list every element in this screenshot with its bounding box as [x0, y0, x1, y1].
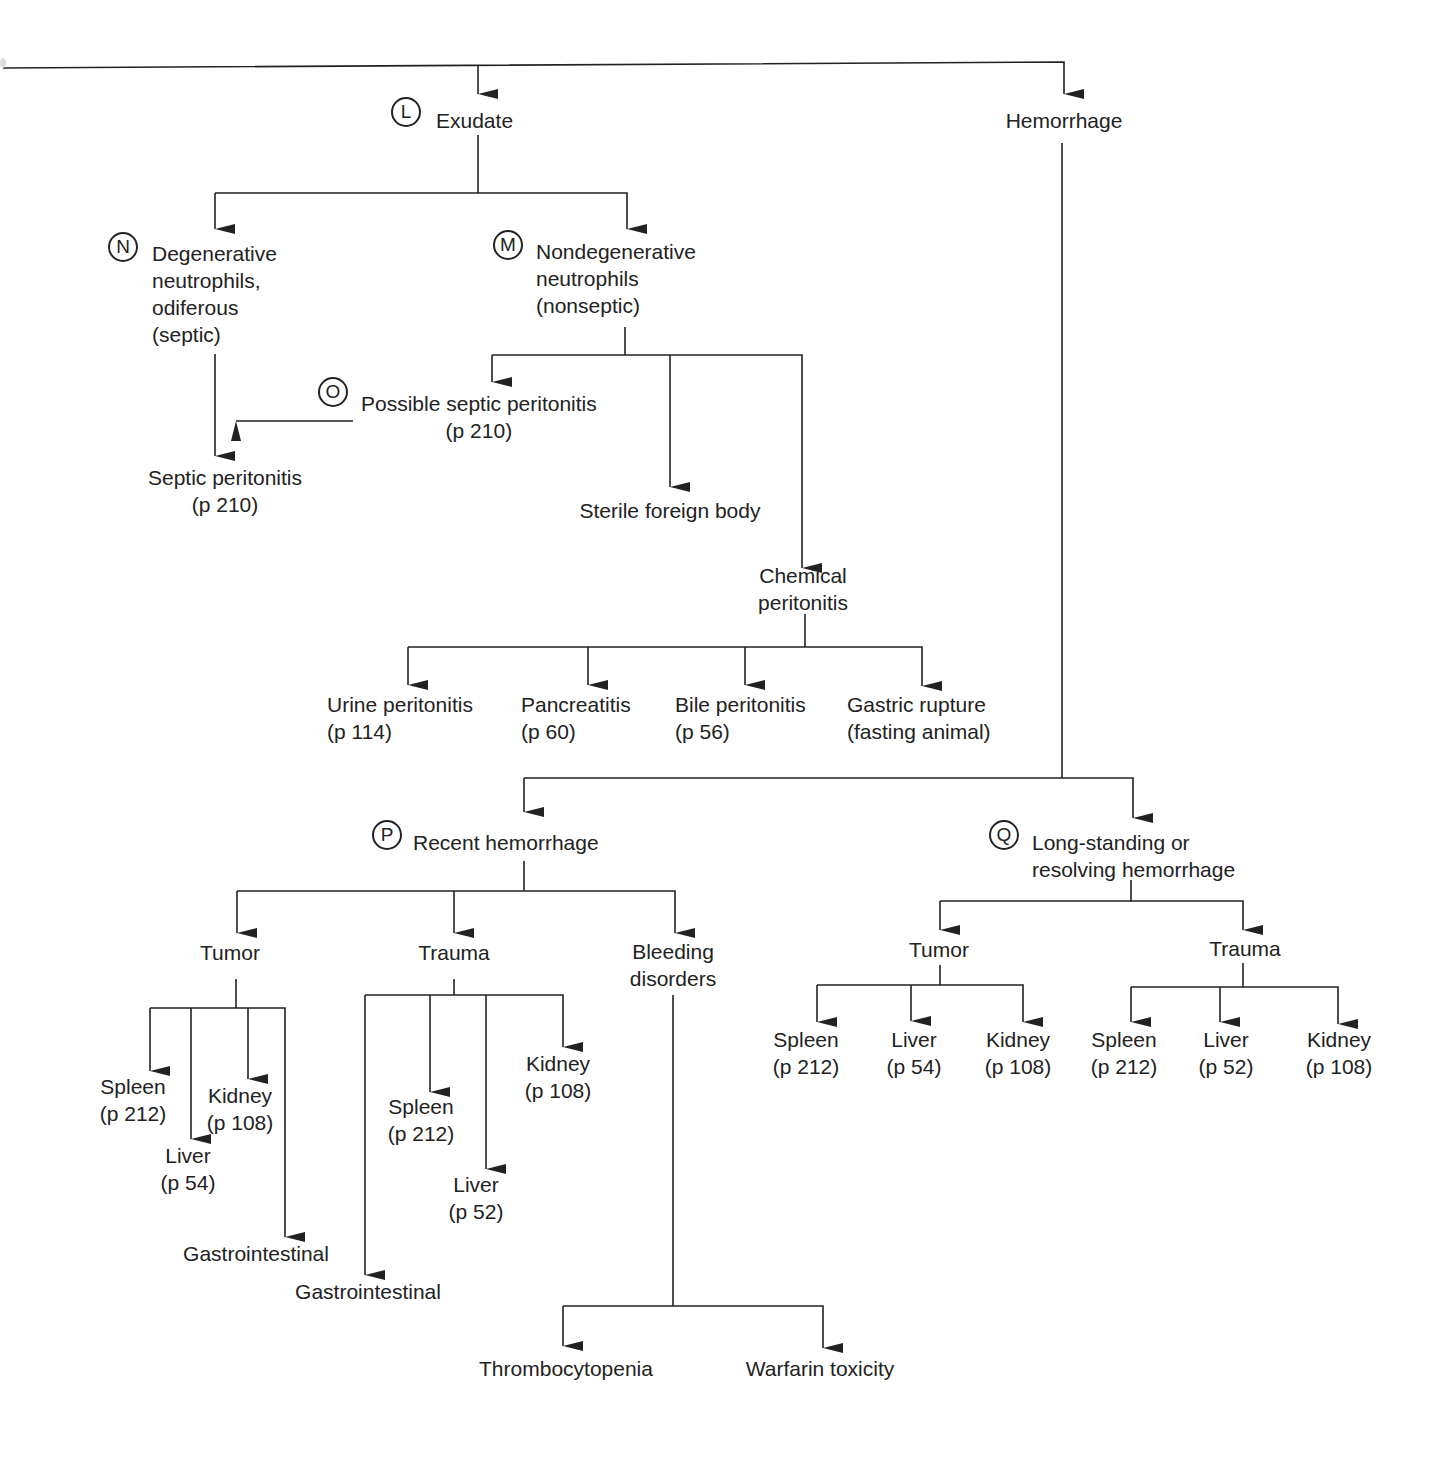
node-line: (septic) [152, 321, 277, 348]
node-ltr-spleen: Spleen (p 212) [1091, 1026, 1158, 1080]
node-line: Kidney [207, 1082, 274, 1109]
node-longstanding-hemorrhage: Long-standing or resolving hemorrhage [1032, 829, 1235, 883]
node-lt-liver: Liver (p 54) [887, 1026, 942, 1080]
node-warfarin-toxicity: Warfarin toxicity [746, 1355, 895, 1382]
page-reference: (p 52) [449, 1198, 504, 1225]
node-line: Degenerative [152, 240, 277, 267]
node-rt-liver: Liver (p 54) [161, 1142, 216, 1196]
arrow-connector [940, 901, 1243, 930]
arrow-connector [3, 62, 1064, 94]
page-reference: (p 108) [525, 1077, 592, 1104]
node-line: Spleen [773, 1026, 840, 1053]
page-reference: (p 56) [675, 718, 806, 745]
node-lt-spleen: Spleen (p 212) [773, 1026, 840, 1080]
badge-p: P [372, 820, 402, 850]
node-line: Spleen [388, 1093, 455, 1120]
arrow-connector [817, 985, 1023, 1022]
badge-m: M [493, 230, 523, 260]
node-rt-gastrointestinal: Gastrointestinal [183, 1240, 329, 1267]
node-line: disorders [630, 965, 716, 992]
node-chemical-peritonitis: Chemical peritonitis [758, 562, 848, 616]
node-rt-kidney: Kidney (p 108) [207, 1082, 274, 1136]
node-line: Kidney [525, 1050, 592, 1077]
node-line: Urine peritonitis [327, 691, 473, 718]
page-reference: (p 54) [887, 1053, 942, 1080]
page-reference: (p 212) [1091, 1053, 1158, 1080]
node-line: neutrophils [536, 265, 696, 292]
node-bile-peritonitis: Bile peritonitis (p 56) [675, 691, 806, 745]
node-rt-spleen: Spleen (p 212) [100, 1073, 167, 1127]
node-line: Kidney [1306, 1026, 1373, 1053]
node-thrombocytopenia: Thrombocytopenia [479, 1355, 653, 1382]
node-line: (fasting animal) [847, 718, 991, 745]
node-line: Bleeding [630, 938, 716, 965]
flowchart: L Exudate Hemorrhage N Degenerative neut… [0, 0, 1443, 1458]
page-reference: (p 114) [327, 718, 473, 745]
node-line: Long-standing or [1032, 829, 1235, 856]
node-pancreatitis: Pancreatitis (p 60) [521, 691, 631, 745]
node-line: odiferous [152, 294, 277, 321]
page-reference: (p 52) [1199, 1053, 1254, 1080]
node-lt-tumor: Tumor [909, 936, 969, 963]
node-recent-hemorrhage: Recent hemorrhage [413, 829, 599, 856]
arrow-connector [524, 778, 1133, 818]
node-rtr-gastrointestinal: Gastrointestinal [295, 1278, 441, 1305]
node-rtr-spleen: Spleen (p 212) [388, 1093, 455, 1147]
node-hemorrhage: Hemorrhage [1006, 107, 1123, 134]
page-reference: (p 60) [521, 718, 631, 745]
node-line: resolving hemorrhage [1032, 856, 1235, 883]
node-line: Liver [449, 1171, 504, 1198]
node-septic-peritonitis: Septic peritonitis (p 210) [148, 464, 302, 518]
node-lt-trauma: Trauma [1209, 935, 1281, 962]
node-line: Gastric rupture [847, 691, 991, 718]
badge-o: O [318, 377, 348, 407]
node-recent-tumor: Tumor [200, 939, 260, 966]
node-sterile-foreign-body: Sterile foreign body [580, 497, 761, 524]
page-reference: (p 210) [148, 491, 302, 518]
arrow-connector [408, 647, 922, 686]
badge-l: L [391, 97, 421, 127]
node-line: Bile peritonitis [675, 691, 806, 718]
node-recent-trauma: Trauma [418, 939, 490, 966]
node-line: Septic peritonitis [148, 464, 302, 491]
page-reference: (p 54) [161, 1169, 216, 1196]
node-exudate: Exudate [436, 107, 513, 134]
node-gastric-rupture: Gastric rupture (fasting animal) [847, 691, 991, 745]
node-line: (nonseptic) [536, 292, 696, 319]
node-line: peritonitis [758, 589, 848, 616]
node-possible-septic-peritonitis: Possible septic peritonitis (p 210) [361, 390, 597, 444]
node-line: Spleen [100, 1073, 167, 1100]
page-reference: (p 212) [100, 1100, 167, 1127]
node-line: Chemical [758, 562, 848, 589]
page-reference: (p 108) [207, 1109, 274, 1136]
arrow-connector [365, 995, 563, 1047]
node-ltr-liver: Liver (p 52) [1199, 1026, 1254, 1080]
node-line: Kidney [985, 1026, 1052, 1053]
node-ltr-kidney: Kidney (p 108) [1306, 1026, 1373, 1080]
page-reference: (p 108) [985, 1053, 1052, 1080]
badge-n: N [108, 232, 138, 262]
page-reference: (p 212) [388, 1120, 455, 1147]
node-bleeding-disorders: Bleeding disorders [630, 938, 716, 992]
node-rtr-kidney: Kidney (p 108) [525, 1050, 592, 1104]
arrow-connector [492, 355, 802, 568]
page-reference: (p 212) [773, 1053, 840, 1080]
page-reference: (p 210) [361, 417, 597, 444]
node-line: Nondegenerative [536, 238, 696, 265]
arrow-connector [1131, 987, 1338, 1024]
node-line: Spleen [1091, 1026, 1158, 1053]
node-urine-peritonitis: Urine peritonitis (p 114) [327, 691, 473, 745]
arrow-connector [215, 193, 627, 229]
arrow-connector [237, 891, 675, 933]
node-line: Possible septic peritonitis [361, 390, 597, 417]
badge-q: Q [989, 820, 1019, 850]
node-rtr-liver: Liver (p 52) [449, 1171, 504, 1225]
arrow-connector [563, 1306, 823, 1348]
node-line: Liver [1199, 1026, 1254, 1053]
node-line: neutrophils, [152, 267, 277, 294]
page-reference: (p 108) [1306, 1053, 1373, 1080]
node-line: Liver [161, 1142, 216, 1169]
node-nondegenerative-neutrophils: Nondegenerative neutrophils (nonseptic) [536, 238, 696, 319]
page-edge-mark [0, 58, 6, 68]
node-degenerative-neutrophils: Degenerative neutrophils, odiferous (sep… [152, 240, 277, 348]
